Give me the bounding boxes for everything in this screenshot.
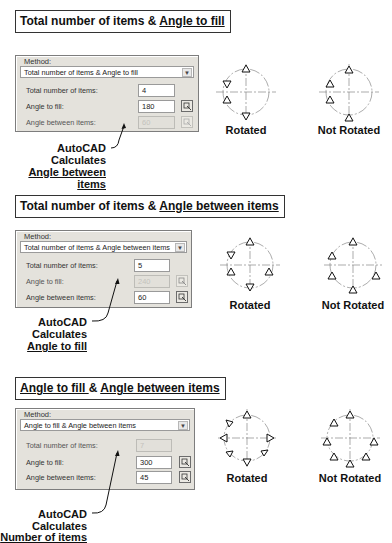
section-angle-to-fill-and-angle-between: Angle to fill & Angle between items Meth… [0, 365, 392, 543]
not-rotated-label: Not Rotated [318, 299, 388, 311]
rotated-label: Rotated [216, 124, 276, 136]
not-rotated-array-diagram [318, 407, 382, 473]
calculated-value-callout: Angle to fill [0, 340, 87, 352]
calculation-callout: AutoCAD Calculates [0, 508, 87, 532]
callout-line: AutoCAD [0, 142, 106, 154]
rotated-array-diagram [216, 407, 278, 469]
callout-result: Number of items [0, 531, 87, 543]
not-rotated-array-diagram [322, 235, 384, 299]
not-rotated-label: Not Rotated [314, 472, 386, 484]
rotated-label: Rotated [220, 299, 280, 311]
not-rotated-label: Not Rotated [314, 124, 384, 136]
calculation-callout: AutoCAD Calculates [0, 316, 87, 340]
callout-line: AutoCAD [0, 508, 87, 520]
callout-line: Calculates [0, 154, 106, 166]
rotated-array-diagram [220, 235, 280, 295]
rotated-array-diagram [216, 62, 276, 122]
calculation-callout: AutoCAD Calculates [0, 142, 106, 166]
section-items-and-angle-between: Total number of items & Angle between it… [0, 185, 392, 365]
not-rotated-array-diagram [319, 62, 379, 126]
callout-line: AutoCAD [0, 316, 87, 328]
callout-result: Angle to fill [27, 340, 87, 352]
callout-line: Calculates [0, 328, 87, 340]
calculated-value-callout: Number of items [0, 531, 87, 543]
section-items-and-angle-to-fill: Total number of items & Angle to fill Me… [0, 0, 392, 185]
rotated-label: Rotated [217, 472, 277, 484]
